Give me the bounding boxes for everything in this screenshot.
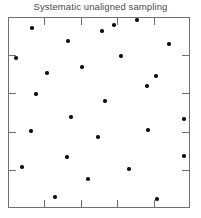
data-point — [182, 117, 185, 120]
data-point — [146, 128, 149, 131]
axis-tick-left — [8, 170, 16, 171]
data-point — [14, 56, 17, 59]
data-point — [86, 177, 89, 180]
axis-tick-bottom — [44, 200, 45, 208]
data-point — [145, 84, 148, 87]
axis-tick-top — [44, 17, 45, 25]
axis-tick-top — [81, 17, 82, 25]
data-point — [69, 115, 72, 118]
data-point — [29, 129, 32, 132]
chart-container: Systematic unaligned sampling — [0, 0, 201, 218]
page-title: Systematic unaligned sampling — [0, 1, 201, 12]
data-point — [34, 92, 37, 95]
data-point — [154, 74, 157, 77]
axis-tick-bottom — [154, 200, 155, 208]
data-point — [96, 135, 99, 138]
axis-tick-left — [8, 132, 16, 133]
data-point — [66, 39, 69, 42]
plot-frame — [8, 17, 190, 208]
data-point — [20, 165, 23, 168]
data-point — [112, 23, 115, 26]
axis-tick-right — [182, 170, 190, 171]
data-point — [30, 26, 33, 29]
axis-tick-right — [182, 55, 190, 56]
data-point — [65, 155, 68, 158]
axis-tick-top — [117, 17, 118, 25]
axis-tick-right — [182, 132, 190, 133]
data-point — [45, 71, 48, 74]
data-point — [155, 197, 158, 200]
axis-tick-right — [182, 93, 190, 94]
data-point — [53, 195, 56, 198]
axis-tick-bottom — [81, 200, 82, 208]
data-point — [80, 65, 83, 68]
data-point — [167, 42, 170, 45]
data-point — [103, 99, 106, 102]
data-point — [119, 54, 122, 57]
data-point — [127, 167, 130, 170]
axis-tick-top — [154, 17, 155, 25]
axis-tick-left — [8, 93, 16, 94]
data-point — [182, 154, 185, 157]
plot-area — [8, 17, 190, 208]
axis-tick-bottom — [117, 200, 118, 208]
data-point — [135, 18, 138, 21]
data-point — [100, 29, 103, 32]
